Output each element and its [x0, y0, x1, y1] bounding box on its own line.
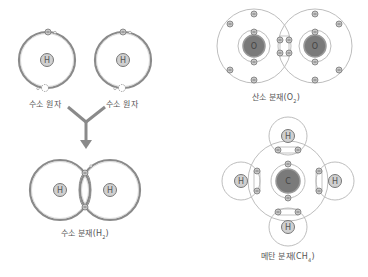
- svg-text:H: H: [285, 132, 291, 141]
- svg-text:O: O: [251, 42, 257, 51]
- oxygen-molecule: O O: [217, 9, 352, 83]
- label-text: 수소 분재(H: [61, 229, 102, 238]
- svg-text:H: H: [120, 56, 126, 65]
- svg-text:C: C: [285, 177, 291, 186]
- label-end: ): [311, 252, 314, 261]
- h-symbol: H: [44, 56, 50, 65]
- svg-text:H: H: [332, 177, 338, 186]
- hydrogen-atom-1: H: [19, 29, 75, 92]
- hydrogen-atom-2: H: [95, 29, 151, 92]
- hydrogen-atom-label-1: 수소 원자: [29, 98, 61, 109]
- label-end: ): [297, 93, 300, 102]
- methane-molecule: C H H H H: [222, 117, 354, 246]
- combine-arrow-icon: [68, 107, 105, 149]
- electron-icon: [82, 204, 88, 210]
- label-text: 메탄 분재(CH: [261, 252, 308, 261]
- svg-text:H: H: [57, 186, 63, 195]
- empty-electron-slot-icon: [119, 85, 126, 92]
- hydrogen-atom-label-2: 수소 원자: [106, 98, 138, 109]
- electron-icon: [45, 29, 51, 35]
- svg-text:O: O: [312, 42, 318, 51]
- electron-icon: [82, 170, 88, 176]
- chemical-bond-diagram: H H H: [0, 0, 368, 277]
- svg-text:H: H: [107, 186, 113, 195]
- methane-molecule-label: 메탄 분재(CH4): [261, 250, 315, 263]
- svg-text:H: H: [238, 177, 244, 186]
- empty-electron-slot-icon: [42, 85, 49, 92]
- label-text: 산소 분재(O: [252, 93, 293, 102]
- oxygen-molecule-label: 산소 분재(O2): [252, 91, 300, 104]
- hydrogen-molecule: H H: [30, 160, 140, 220]
- label-end: ): [106, 229, 109, 238]
- hydrogen-molecule-label: 수소 분재(H2): [61, 227, 109, 240]
- svg-text:H: H: [285, 223, 291, 232]
- electron-icon: [120, 29, 126, 35]
